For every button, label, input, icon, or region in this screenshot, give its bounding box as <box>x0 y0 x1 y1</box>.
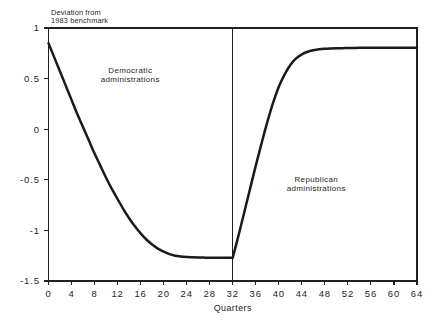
y-tick-label--1: -1 <box>30 225 40 236</box>
y-axis-tick-labels: 10.50-0.5-1-1.5 <box>20 22 40 286</box>
x-tick-label-32: 32 <box>227 288 239 299</box>
x-axis-ticks <box>49 281 418 285</box>
x-tick-label-16: 16 <box>134 288 146 299</box>
x-tick-label-0: 0 <box>45 288 51 299</box>
y-tick-label--1.5: -1.5 <box>20 275 40 286</box>
x-tick-label-64: 64 <box>411 288 423 299</box>
x-tick-label-44: 44 <box>296 288 308 299</box>
y-tick-label--0.5: -0.5 <box>20 174 40 185</box>
annotation-line: Democratic <box>108 66 152 75</box>
x-tick-label-20: 20 <box>157 288 169 299</box>
chart-figure: 0481216202428323640444852566064 10.50-0.… <box>0 0 434 320</box>
x-tick-label-8: 8 <box>91 288 97 299</box>
y-tick-label-1: 1 <box>34 22 40 33</box>
chart-canvas: 0481216202428323640444852566064 10.50-0.… <box>0 0 434 320</box>
x-tick-label-52: 52 <box>342 288 354 299</box>
plot-annotations: DemocraticadministrationsRepublicanadmin… <box>101 66 346 194</box>
x-axis-tick-labels: 0481216202428323640444852566064 <box>45 288 423 299</box>
x-axis-title: Quarters <box>214 303 252 313</box>
x-tick-label-28: 28 <box>204 288 216 299</box>
annotation-democratic-administrations: Democraticadministrations <box>101 66 160 85</box>
x-tick-label-40: 40 <box>273 288 285 299</box>
x-tick-label-24: 24 <box>181 288 193 299</box>
y-axis-title-text: Deviation from1983 benchmark <box>51 8 108 25</box>
y-axis-ticks <box>44 28 48 281</box>
x-tick-label-36: 36 <box>250 288 262 299</box>
annotation-line: administrations <box>101 75 160 84</box>
y-axis-title-line: 1983 benchmark <box>51 16 108 25</box>
annotation-republican-administrations: Republicanadministrations <box>287 175 346 194</box>
x-tick-label-48: 48 <box>319 288 331 299</box>
annotation-line: Republican <box>294 175 338 184</box>
x-tick-label-56: 56 <box>365 288 377 299</box>
x-tick-label-4: 4 <box>68 288 74 299</box>
x-tick-label-60: 60 <box>388 288 400 299</box>
y-axis-title: Deviation from1983 benchmark <box>51 8 108 25</box>
annotation-line: administrations <box>287 184 346 193</box>
y-tick-label-0: 0 <box>34 124 40 135</box>
x-axis-title-text: Quarters <box>214 303 252 313</box>
x-tick-label-12: 12 <box>111 288 123 299</box>
y-tick-label-0.5: 0.5 <box>24 73 40 84</box>
